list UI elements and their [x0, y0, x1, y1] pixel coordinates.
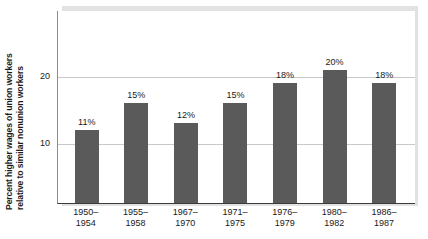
x-tick-label: 1976– 1979 [265, 207, 305, 228]
x-tick-label: 1967– 1970 [165, 207, 205, 228]
plot-area: 11% 15% 12% 15% 18% 20% [57, 11, 415, 204]
x-tick-line-2: 1970 [165, 218, 205, 229]
y-tick-label-20: 20 [28, 72, 50, 81]
bar-group: 11% [75, 11, 99, 203]
x-tick-line-2: 1958 [116, 218, 156, 229]
table-row [75, 130, 99, 203]
bar-value-label: 20% [326, 57, 344, 68]
bar-group: 15% [124, 11, 148, 203]
bar-group: 20% [323, 11, 347, 203]
y-axis-title-line-2: relative to similar nonunion workers [15, 53, 26, 210]
x-tick-line-1: 1950– [66, 207, 106, 218]
x-tick-label: 1980– 1982 [314, 207, 354, 228]
x-tick-line-1: 1980– [314, 207, 354, 218]
bar-series: 11% 15% 12% 15% 18% 20% [58, 11, 415, 203]
x-tick-line-2: 1979 [265, 218, 305, 229]
bar-chart-figure: Percent higher wages of union workers re… [0, 0, 428, 239]
source-caption [8, 232, 426, 239]
table-row [174, 123, 198, 203]
table-row [124, 103, 148, 203]
x-tick-line-1: 1955– [116, 207, 156, 218]
bar-group: 12% [174, 11, 198, 203]
x-tick-line-1: 1976– [265, 207, 305, 218]
x-tick-line-2: 1982 [314, 218, 354, 229]
y-tick-label-10: 10 [28, 139, 50, 148]
x-tick-label: 1971– 1975 [215, 207, 255, 228]
table-row [323, 70, 347, 203]
x-tick-label: 1986– 1987 [364, 207, 404, 228]
bar-value-label: 18% [276, 70, 294, 81]
x-tick-line-1: 1967– [165, 207, 205, 218]
bar-value-label: 18% [375, 70, 393, 81]
x-tick-line-1: 1971– [215, 207, 255, 218]
bar-group: 18% [273, 11, 297, 203]
bar-group: 18% [372, 11, 396, 203]
x-tick-label: 1955– 1958 [116, 207, 156, 228]
x-tick-line-1: 1986– [364, 207, 404, 218]
bar-value-label: 12% [177, 110, 195, 121]
y-axis-title: Percent higher wages of union workers re… [0, 0, 30, 212]
bar-group: 15% [223, 11, 247, 203]
table-row [372, 83, 396, 203]
y-axis-title-line-1: Percent higher wages of union workers [4, 53, 14, 210]
bar-value-label: 15% [127, 90, 145, 101]
x-tick-line-2: 1954 [66, 218, 106, 229]
bar-value-label: 11% [78, 117, 95, 128]
x-tick-line-2: 1975 [215, 218, 255, 229]
x-tick-label: 1950– 1954 [66, 207, 106, 228]
table-row [223, 103, 247, 203]
x-tick-line-2: 1987 [364, 218, 404, 229]
x-axis-tick-labels: 1950– 1954 1955– 1958 1967– 1970 1971– 1… [57, 207, 415, 228]
table-row [273, 83, 297, 203]
bar-value-label: 15% [226, 90, 244, 101]
